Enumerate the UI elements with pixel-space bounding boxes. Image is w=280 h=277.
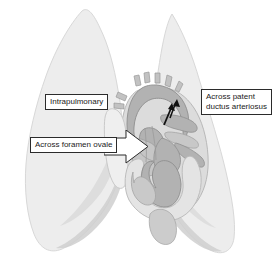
- label-intrapulmonary-text: Intrapulmonary: [50, 97, 103, 107]
- label-intrapulmonary[interactable]: Intrapulmonary: [45, 94, 108, 110]
- label-foramen-ovale-text: Across foramen ovale: [35, 140, 112, 150]
- fetal-circulation-diagram: Intrapulmonary Across patent ductus arte…: [0, 0, 280, 277]
- label-foramen-ovale[interactable]: Across foramen ovale: [30, 137, 117, 153]
- label-patent-ductus-line1: Across patent: [206, 92, 267, 102]
- label-patent-ductus-arteriosus[interactable]: Across patent ductus arteriosus: [201, 89, 272, 115]
- label-patent-ductus-line2: ductus arteriosus: [206, 102, 267, 112]
